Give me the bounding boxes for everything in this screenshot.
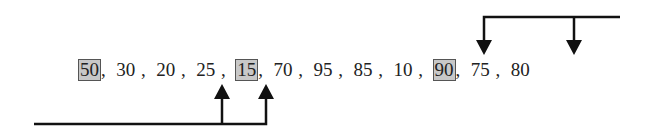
sequence-number: 85 bbox=[353, 60, 374, 80]
separator: , bbox=[294, 59, 313, 81]
arrow-down-icon bbox=[476, 40, 492, 55]
separator: , bbox=[334, 59, 353, 81]
sequence-number: 75 bbox=[470, 60, 491, 80]
sequence-number: 80 bbox=[510, 60, 531, 80]
highlighted-number: 50 bbox=[78, 59, 101, 81]
separator: , bbox=[414, 59, 433, 81]
arrow-up-icon bbox=[214, 84, 230, 99]
sequence-number: 30 bbox=[115, 60, 136, 80]
separator: , bbox=[176, 59, 195, 81]
arrow-up-icon bbox=[258, 84, 274, 99]
separator: , bbox=[136, 59, 155, 81]
separator: , bbox=[374, 59, 393, 81]
highlighted-number: 15 bbox=[235, 59, 258, 81]
top-connector-line bbox=[484, 17, 620, 42]
sequence-number: 95 bbox=[313, 60, 334, 80]
sequence-number: 20 bbox=[155, 60, 176, 80]
arrow-down-icon bbox=[566, 40, 582, 55]
separator: , bbox=[258, 59, 272, 81]
number-sequence: 50, 30 , 20 , 25 , 15, 70 , 95 , 85 , 10… bbox=[78, 59, 531, 81]
sequence-number: 10 bbox=[393, 60, 414, 80]
highlighted-number: 90 bbox=[433, 59, 456, 81]
separator: , bbox=[216, 59, 235, 81]
separator: , bbox=[456, 59, 470, 81]
separator: , bbox=[491, 59, 510, 81]
sequence-number: 25 bbox=[195, 60, 216, 80]
bottom-connector-line bbox=[34, 98, 266, 124]
sequence-number: 70 bbox=[273, 60, 294, 80]
separator: , bbox=[101, 59, 115, 81]
